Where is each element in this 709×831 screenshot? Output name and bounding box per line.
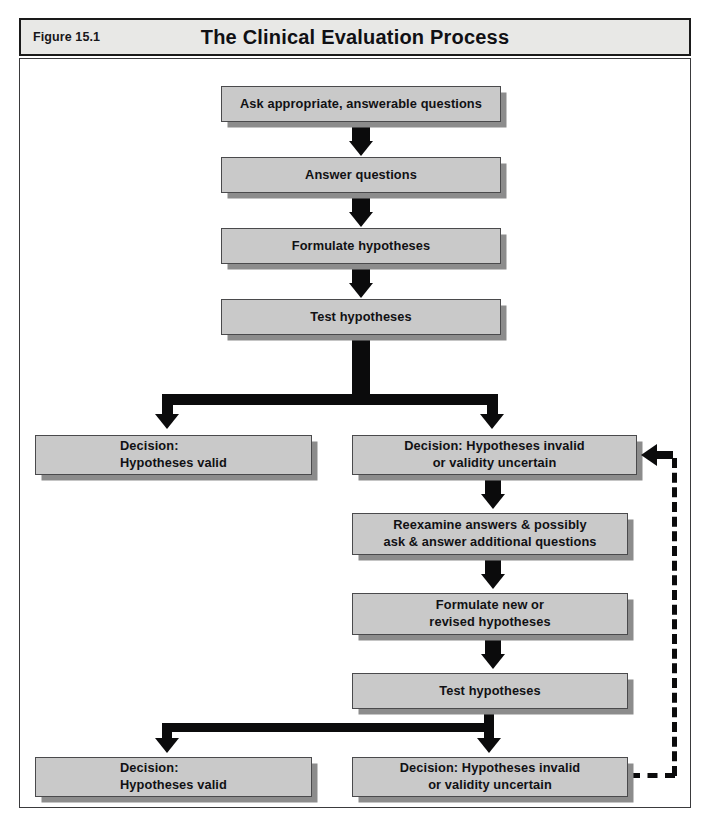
node-test-hypotheses-2: Test hypotheses: [352, 673, 628, 709]
figure-title: The Clinical Evaluation Process: [21, 26, 689, 49]
node-decision-invalid-bottom-label: Decision: Hypotheses invalid or validity…: [388, 760, 593, 794]
node-reexamine-label: Reexamine answers & possibly ask & answe…: [371, 517, 608, 551]
node-decision-invalid-bottom: Decision: Hypotheses invalid or validity…: [352, 757, 628, 797]
connector-branch-right-drop: [487, 394, 498, 416]
node-formulate-hypotheses-label: Formulate hypotheses: [286, 238, 437, 255]
connector-bottom-branch-bar: [162, 723, 494, 732]
node-test-hypotheses: Test hypotheses: [221, 299, 501, 335]
node-formulate-new-line1: Formulate new or: [423, 597, 556, 614]
connector-ask-to-answer-arrowhead: [349, 141, 373, 156]
connector-bottom-branch-left-arrowhead: [155, 738, 179, 753]
connector-branch-bar: [162, 394, 498, 405]
feedback-arrowhead-icon: [641, 444, 657, 466]
connector-reexamine-to-formulate-arrowhead: [481, 574, 505, 589]
node-decision-invalid-bottom-line1: Decision: Hypotheses invalid: [394, 760, 587, 777]
node-decision-valid-bottom-line2: Hypotheses valid: [114, 777, 233, 794]
node-decision-invalid-top-line1: Decision: Hypotheses invalid: [398, 438, 591, 455]
node-ask-questions: Ask appropriate, answerable questions: [221, 86, 501, 122]
node-answer-questions-label: Answer questions: [299, 167, 423, 184]
node-reexamine: Reexamine answers & possibly ask & answe…: [352, 513, 628, 555]
connector-invalid-to-reexamine-arrowhead: [481, 494, 505, 509]
connector-branch-stem: [352, 340, 370, 400]
node-ask-questions-label: Ask appropriate, answerable questions: [234, 96, 488, 113]
connector-formulate-new-to-test-arrowhead: [481, 654, 505, 669]
connector-formulate-to-test-arrowhead: [349, 283, 373, 298]
connector-branch-right-arrowhead: [480, 414, 504, 429]
node-decision-valid-top-line1: Decision:: [114, 438, 233, 455]
node-decision-valid-top-line2: Hypotheses valid: [114, 455, 233, 472]
node-formulate-hypotheses: Formulate hypotheses: [221, 228, 501, 264]
node-reexamine-line1: Reexamine answers & possibly: [377, 517, 602, 534]
feedback-dashed-vertical: [672, 458, 677, 776]
node-formulate-new: Formulate new or revised hypotheses: [352, 593, 628, 635]
node-test-hypotheses-2-label: Test hypotheses: [433, 683, 547, 700]
node-decision-valid-bottom-label: Decision: Hypotheses valid: [36, 760, 239, 794]
node-decision-valid-top-label: Decision: Hypotheses valid: [36, 438, 239, 472]
feedback-dashed-horizontal-bottom: [630, 773, 675, 778]
node-reexamine-line2: ask & answer additional questions: [377, 534, 602, 551]
connector-branch-left-arrowhead: [155, 414, 179, 429]
node-formulate-new-label: Formulate new or revised hypotheses: [417, 597, 562, 631]
node-decision-valid-bottom: Decision: Hypotheses valid: [35, 757, 312, 797]
feedback-arrow-tail: [655, 451, 673, 459]
node-formulate-new-line2: revised hypotheses: [423, 614, 556, 631]
node-test-hypotheses-label: Test hypotheses: [304, 309, 418, 326]
node-decision-invalid-bottom-line2: or validity uncertain: [394, 777, 587, 794]
connector-answer-to-formulate-arrowhead: [349, 212, 373, 227]
connector-bottom-branch-right-stem: [484, 709, 494, 741]
node-decision-valid-bottom-line1: Decision:: [114, 760, 233, 777]
node-decision-invalid-top-label: Decision: Hypotheses invalid or validity…: [392, 438, 597, 472]
node-answer-questions: Answer questions: [221, 157, 501, 193]
figure-header: Figure 15.1 The Clinical Evaluation Proc…: [19, 18, 691, 56]
node-decision-invalid-top-line2: or validity uncertain: [398, 455, 591, 472]
node-decision-invalid-top: Decision: Hypotheses invalid or validity…: [352, 435, 637, 475]
figure-page: Figure 15.1 The Clinical Evaluation Proc…: [0, 0, 709, 831]
node-decision-valid-top: Decision: Hypotheses valid: [35, 435, 312, 475]
connector-bottom-branch-right-arrowhead: [477, 738, 501, 753]
connector-branch-left-drop: [162, 394, 173, 416]
